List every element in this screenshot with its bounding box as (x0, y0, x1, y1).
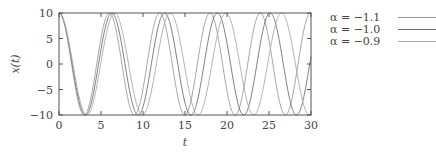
x-axis-label: t (183, 136, 188, 149)
x-tick-label: 0 (56, 119, 63, 132)
y-tick-label: −5 (37, 84, 53, 97)
x-tick-label: 25 (262, 119, 276, 132)
x-tick-label: 20 (220, 119, 234, 132)
legend: α = −1.1 α = −1.0 α = −0.9 (330, 11, 436, 47)
y-tick-label: 0 (46, 58, 53, 71)
x-tick-label: 10 (136, 119, 150, 132)
legend-line-swatch (398, 41, 436, 42)
y-tick-label: −10 (30, 109, 53, 122)
x-tick-label: 30 (304, 119, 318, 132)
legend-item: α = −1.1 (330, 11, 436, 23)
legend-line-swatch (398, 29, 436, 30)
y-tick-label: 10 (39, 7, 53, 20)
legend-label: α = −0.9 (330, 35, 388, 48)
y-axis-label: x(t) (9, 54, 22, 73)
x-tick-label: 5 (98, 119, 105, 132)
legend-item: α = −1.0 (330, 23, 436, 35)
y-tick-label: 5 (46, 33, 53, 46)
x-tick-label: 15 (178, 119, 192, 132)
legend-line-swatch (398, 17, 436, 18)
series-line (59, 13, 311, 115)
plot-curves (59, 13, 311, 115)
legend-item: α = −0.9 (330, 35, 436, 47)
